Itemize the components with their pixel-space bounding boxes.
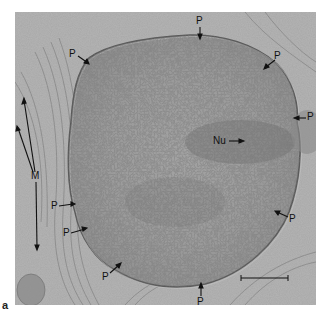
scale-bar: [241, 275, 288, 281]
nucleolus-label: Nu: [213, 136, 226, 146]
mitochondria-arrow: [36, 182, 37, 248]
panel-label: a: [2, 299, 8, 311]
pore-label: P: [63, 228, 70, 238]
pore-label: P: [197, 297, 204, 307]
pore-label: P: [69, 49, 76, 59]
pore-label: P: [196, 16, 203, 26]
pore-label: P: [307, 112, 314, 122]
pore-label: P: [289, 214, 296, 224]
micrograph-figure: P P P P P P P P P Nu M a: [0, 0, 327, 317]
mitochondria-label: M: [31, 171, 39, 181]
pore-label: P: [102, 272, 109, 282]
pore-label: P: [51, 201, 58, 211]
annotation-arrows: [0, 0, 327, 317]
mitochondria-arrow: [18, 128, 33, 172]
pore-label: P: [274, 51, 281, 61]
